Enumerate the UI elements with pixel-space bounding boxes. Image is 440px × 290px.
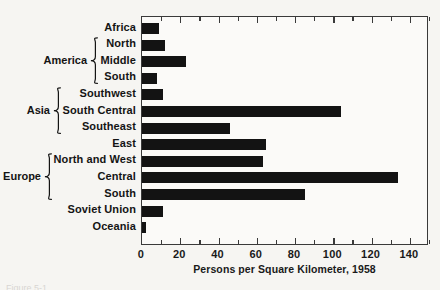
x-tick-label-0: 0 xyxy=(138,248,144,260)
tick-140 xyxy=(410,238,411,244)
bar-southwest xyxy=(142,89,163,100)
tick-60 xyxy=(257,17,258,23)
tick-10 xyxy=(161,17,162,21)
tick-150 xyxy=(429,17,430,21)
tick-20 xyxy=(180,17,181,23)
category-label-soviet-union: Soviet Union xyxy=(1,204,141,215)
category-label-oceania: Oceania xyxy=(1,221,141,232)
x-tick-label-40: 40 xyxy=(211,248,224,260)
brace-america xyxy=(90,37,98,84)
tick-110 xyxy=(352,17,353,21)
bar-south-central xyxy=(142,106,341,117)
tick-80 xyxy=(295,238,296,244)
bar-central xyxy=(142,172,398,183)
tick-70 xyxy=(276,240,277,244)
brace-europe xyxy=(44,153,52,200)
category-label-north: North xyxy=(1,38,141,49)
x-tick-label-100: 100 xyxy=(323,248,342,260)
bar-row xyxy=(142,89,163,100)
tick-100 xyxy=(333,238,334,244)
tick-70 xyxy=(276,17,277,21)
bar-southeast xyxy=(142,123,230,134)
tick-140 xyxy=(410,17,411,23)
bar-row xyxy=(142,106,341,117)
tick-90 xyxy=(314,17,315,21)
bar-row xyxy=(142,40,165,51)
category-label-north-and-west: North and West xyxy=(1,154,141,165)
bar-row xyxy=(142,73,157,84)
figure-caption: Figure 5-1. xyxy=(6,283,50,290)
category-label-southwest: Southwest xyxy=(1,88,141,99)
bar-north-and-west xyxy=(142,156,263,167)
tick-100 xyxy=(333,17,334,23)
x-tick-label-120: 120 xyxy=(361,248,380,260)
tick-30 xyxy=(199,240,200,244)
tick-130 xyxy=(391,240,392,244)
bar-row xyxy=(142,156,263,167)
bar-soviet-union xyxy=(142,206,163,217)
bar-row xyxy=(142,139,266,150)
bar-middle xyxy=(142,56,186,67)
figure: AfricaNorthMiddleSouthSouthwestSouth Cen… xyxy=(0,0,440,290)
tick-50 xyxy=(238,240,239,244)
bar-row xyxy=(142,222,146,233)
tick-120 xyxy=(372,17,373,23)
group-label-america: America xyxy=(0,55,87,66)
group-label-asia: Asia xyxy=(0,105,50,116)
bar-row xyxy=(142,23,159,34)
bar-north xyxy=(142,40,165,51)
tick-130 xyxy=(391,17,392,21)
bar-row xyxy=(142,206,163,217)
tick-40 xyxy=(219,238,220,244)
bar-africa xyxy=(142,23,159,34)
category-label-south: South xyxy=(1,188,141,199)
bar-oceania xyxy=(142,222,146,233)
tick-90 xyxy=(314,240,315,244)
tick-60 xyxy=(257,238,258,244)
category-label-south: South xyxy=(1,71,141,82)
tick-80 xyxy=(295,17,296,23)
tick-110 xyxy=(352,240,353,244)
bar-row xyxy=(142,123,230,134)
tick-20 xyxy=(180,238,181,244)
tick-40 xyxy=(219,17,220,23)
brace-asia xyxy=(53,87,61,134)
tick-50 xyxy=(238,17,239,21)
bar-east xyxy=(142,139,266,150)
x-tick-label-140: 140 xyxy=(399,248,418,260)
tick-150 xyxy=(429,240,430,244)
x-tick-label-60: 60 xyxy=(249,248,262,260)
tick-30 xyxy=(199,17,200,21)
bar-south xyxy=(142,73,157,84)
bar-row xyxy=(142,56,186,67)
bar-row xyxy=(142,172,398,183)
tick-120 xyxy=(372,238,373,244)
bars-group xyxy=(142,17,427,244)
x-axis-title: Persons per Square Kilometer, 1958 xyxy=(141,263,428,275)
plot-area xyxy=(141,16,428,245)
category-label-southeast: Southeast xyxy=(1,121,141,132)
category-label-africa: Africa xyxy=(1,22,141,33)
bar-south xyxy=(142,189,305,200)
group-label-europe: Europe xyxy=(0,171,41,182)
x-tick-label-20: 20 xyxy=(173,248,186,260)
tick-10 xyxy=(161,240,162,244)
bar-row xyxy=(142,189,305,200)
x-tick-label-80: 80 xyxy=(288,248,301,260)
category-label-east: East xyxy=(1,138,141,149)
